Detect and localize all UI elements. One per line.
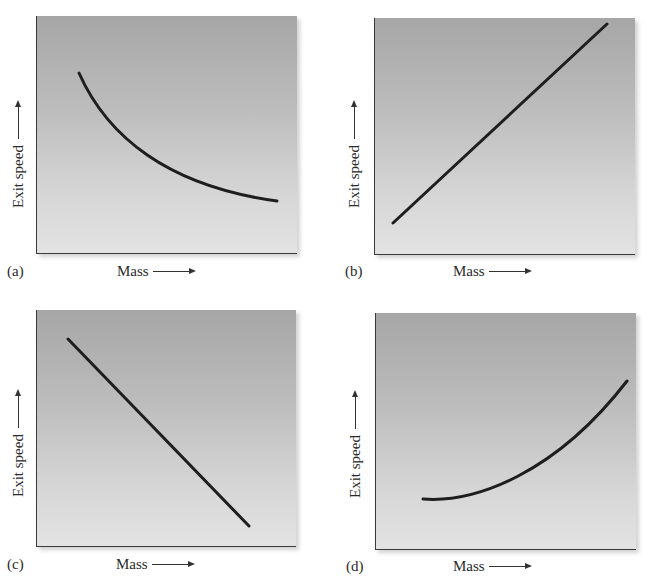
arrow-right-icon [489, 271, 527, 272]
x-axis-label-text: Mass [453, 558, 485, 575]
plot-area-b [374, 18, 635, 255]
x-axis-label-d: Mass [453, 558, 527, 575]
y-axis-label-a: Exit speed [10, 105, 27, 208]
panel-tag-b: (b) [345, 263, 363, 280]
panel-tag-c: (c) [7, 556, 24, 573]
curve-d [376, 313, 636, 549]
x-axis-label-a: Mass [117, 263, 191, 280]
arrow-up-icon [354, 105, 355, 139]
arrow-up-icon [355, 395, 356, 429]
y-axis-label-text: Exit speed [346, 145, 363, 208]
y-axis-label-text: Exit speed [10, 145, 27, 208]
plot-area-a [36, 16, 297, 254]
line-c [37, 310, 296, 546]
arrow-right-icon [489, 566, 527, 567]
cropped-caption-strip [0, 0, 654, 4]
y-axis-label-c: Exit speed [10, 394, 27, 497]
x-axis-label-text: Mass [117, 263, 149, 280]
y-axis-label-b: Exit speed [346, 105, 363, 208]
x-axis-label-text: Mass [453, 263, 485, 280]
x-axis-label-text: Mass [116, 556, 148, 573]
line-b [375, 18, 635, 254]
plot-area-d [375, 313, 636, 550]
x-axis-label-c: Mass [116, 556, 190, 573]
panel-tag-a: (a) [7, 263, 24, 280]
y-axis-label-text: Exit speed [10, 434, 27, 497]
arrow-right-icon [152, 564, 190, 565]
y-axis-label-d: Exit speed [347, 395, 364, 498]
curve-a [37, 16, 297, 253]
arrow-right-icon [153, 271, 191, 272]
plot-area-c [36, 310, 296, 547]
y-axis-label-text: Exit speed [347, 435, 364, 498]
panel-tag-d: (d) [346, 558, 364, 575]
x-axis-label-b: Mass [453, 263, 527, 280]
arrow-up-icon [18, 105, 19, 139]
arrow-up-icon [18, 394, 19, 428]
